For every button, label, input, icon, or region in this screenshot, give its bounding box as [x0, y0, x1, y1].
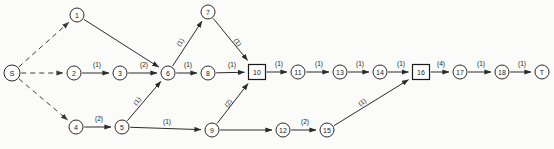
node-5[interactable]: 5 [115, 120, 129, 134]
node-shape-7 [201, 5, 215, 19]
node-shape-13 [333, 65, 347, 79]
edge-labels-layer: (1)(2)(2)(1)(1)(1)(1)(1)(1)(2)(1)(1)(2)(… [93, 37, 526, 126]
node-1[interactable]: 1 [70, 8, 84, 22]
node-18[interactable]: 18 [495, 65, 509, 79]
edge-label-5-to-6: (1) [132, 96, 143, 107]
edge-15-to-16 [334, 80, 409, 126]
node-4[interactable]: 4 [69, 120, 83, 134]
node-shape-16 [413, 65, 430, 80]
edge-label-6-to-7: (1) [175, 37, 186, 48]
edge-label-8-to-10: (1) [228, 61, 236, 69]
node-8[interactable]: 8 [201, 66, 215, 80]
node-9[interactable]: 9 [205, 123, 219, 137]
node-shape-10 [249, 65, 266, 80]
node-13[interactable]: 13 [333, 65, 347, 79]
node-shape-9 [205, 123, 219, 137]
node-shape-17 [453, 65, 467, 79]
node-shape-S [4, 65, 20, 81]
nodes-layer: S123456789101112131415161718T [4, 5, 549, 137]
node-shape-2 [67, 66, 81, 80]
edge-label-10-to-11: (1) [275, 60, 283, 68]
node-17[interactable]: 17 [453, 65, 467, 79]
edge-7-to-10 [213, 18, 247, 60]
edge-5-to-9 [130, 127, 201, 129]
node-12[interactable]: 12 [276, 123, 290, 137]
node-3[interactable]: 3 [113, 66, 127, 80]
node-S[interactable]: S [4, 65, 20, 81]
node-shape-5 [115, 120, 129, 134]
node-6[interactable]: 6 [161, 66, 175, 80]
edge-label-13-to-14: (1) [356, 60, 364, 68]
node-shape-T [535, 65, 549, 79]
edge-label-17-to-18: (1) [477, 60, 485, 68]
node-2[interactable]: 2 [67, 66, 81, 80]
edge-label-5-to-9: (1) [163, 118, 171, 126]
edge-label-18-to-T: (1) [518, 60, 526, 68]
node-shape-14 [373, 65, 387, 79]
edge-label-6-to-8: (1) [184, 61, 192, 69]
node-shape-11 [291, 65, 305, 79]
node-shape-3 [113, 66, 127, 80]
node-10[interactable]: 10 [249, 65, 266, 80]
edge-label-7-to-10: (1) [232, 37, 243, 48]
node-shape-6 [161, 66, 175, 80]
node-T[interactable]: T [535, 65, 549, 79]
node-shape-8 [201, 66, 215, 80]
node-shape-12 [276, 123, 290, 137]
node-16[interactable]: 16 [413, 65, 430, 80]
edge-label-2-to-3: (1) [93, 61, 101, 69]
edge-label-16-to-17: (4) [437, 60, 445, 68]
node-11[interactable]: 11 [291, 65, 305, 79]
edge-label-3-to-6: (2) [140, 61, 148, 69]
edge-S-to-4 [19, 79, 68, 120]
node-7[interactable]: 7 [201, 5, 215, 19]
edge-8-to-10 [216, 72, 244, 73]
node-14[interactable]: 14 [373, 65, 387, 79]
edge-label-14-to-16: (1) [397, 60, 405, 68]
edge-S-to-1 [19, 22, 69, 67]
node-shape-18 [495, 65, 509, 79]
network-diagram: (1)(2)(2)(1)(1)(1)(1)(1)(1)(2)(1)(1)(2)(… [0, 0, 554, 149]
edge-label-11-to-13: (1) [315, 60, 323, 68]
edge-label-4-to-5: (2) [95, 115, 103, 123]
edge-9-to-10 [217, 84, 248, 124]
graph-canvas: (1)(2)(2)(1)(1)(1)(1)(1)(1)(2)(1)(1)(2)(… [0, 0, 554, 149]
node-shape-1 [70, 8, 84, 22]
node-shape-4 [69, 120, 83, 134]
edge-label-12-to-15: (2) [301, 118, 309, 126]
node-15[interactable]: 15 [320, 123, 334, 137]
node-shape-15 [320, 123, 334, 137]
